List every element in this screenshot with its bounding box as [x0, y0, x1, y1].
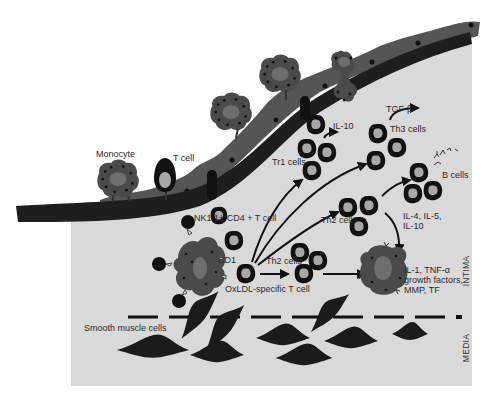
label-nkt-cell: NK1.1+ CD4 + T cell [194, 213, 276, 223]
adherent-monocyte [210, 92, 252, 130]
label-intima: INTIMA [461, 251, 471, 291]
label-media: MEDIA [461, 328, 471, 368]
oxldl-specific-t-cell [237, 264, 256, 283]
label-il1: IL-1, TNF-α [404, 265, 450, 275]
atherosclerosis-immune-diagram: Monocyte T cell IL-10 Tr1 cells TGF-β Th… [0, 0, 502, 399]
label-tr1-cells: Tr1 cells [272, 157, 306, 167]
adherent-monocyte [259, 54, 301, 92]
label-tgf-beta: TGF-β [386, 104, 412, 114]
label-il4: IL-4, IL-5, [403, 211, 442, 221]
nkt-cell [225, 231, 244, 250]
diagram-canvas [0, 0, 502, 399]
label-th2-cells-upper: Th2 cells [321, 215, 357, 225]
label-growth-factors: growth factors, [404, 275, 463, 285]
label-smooth-muscle: Smooth muscle cells [84, 323, 167, 333]
label-il10-b: IL-10 [403, 221, 424, 231]
label-il10: IL-10 [333, 121, 354, 131]
label-oxldl-t-cell: OxLDL-specific T cell [225, 284, 310, 294]
label-th3-cells: Th3 cells [390, 124, 426, 134]
label-cd1: CD1 [218, 255, 236, 265]
endothelium-nucleus [469, 23, 474, 28]
label-t-cell: T cell [173, 153, 194, 163]
label-b-cells: B cells [442, 170, 469, 180]
label-th2-cells-lower: Th2 cells [266, 256, 302, 266]
label-monocyte: Monocyte [96, 149, 135, 159]
monocyte-cell [97, 159, 139, 197]
label-mmp-tf: MMP, TF [404, 285, 440, 295]
